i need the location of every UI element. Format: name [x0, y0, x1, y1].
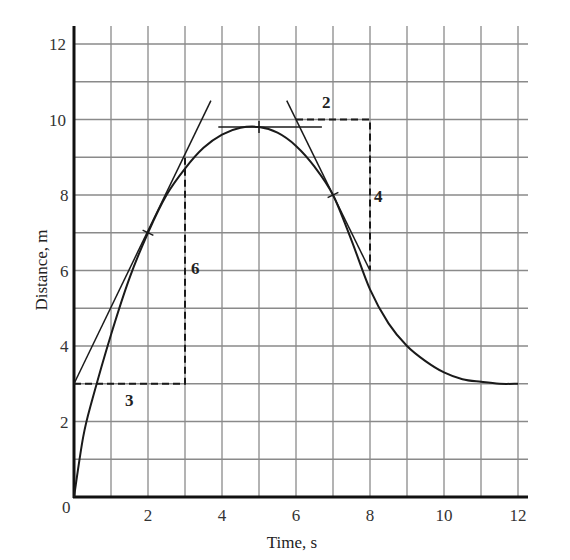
x-tick-10: 10	[436, 506, 453, 525]
distance-time-chart: 0 2 4 6 8 10 12 2 4 6 8 10 12 Time, s Di…	[0, 0, 570, 560]
y-tick-8: 8	[60, 186, 69, 205]
x-tick-12: 12	[510, 506, 527, 525]
y-tick-12: 12	[49, 35, 66, 54]
run-label-1: 3	[125, 391, 134, 410]
x-tick-6: 6	[292, 506, 301, 525]
tangent-line	[74, 101, 211, 384]
x-tick-labels: 2 4 6 8 10 12	[144, 506, 527, 525]
axes	[73, 26, 528, 498]
rise-label-2: 4	[374, 187, 383, 206]
annotations: 3 6 2 4	[125, 93, 383, 410]
y-tick-10: 10	[49, 111, 66, 130]
rise-label-1: 6	[191, 259, 200, 278]
tangent-point-marks	[143, 121, 339, 235]
x-axis-label: Time, s	[267, 533, 317, 552]
y-tick-6: 6	[60, 262, 69, 281]
y-tick-4: 4	[60, 337, 69, 356]
origin-label: 0	[62, 498, 71, 517]
run-label-2: 2	[322, 93, 331, 112]
y-axis-label: Distance, m	[32, 229, 51, 310]
x-tick-4: 4	[218, 506, 227, 525]
x-tick-8: 8	[366, 506, 375, 525]
x-tick-2: 2	[144, 506, 153, 525]
y-tick-2: 2	[60, 413, 69, 432]
y-tick-labels: 0 2 4 6 8 10 12	[49, 35, 71, 517]
grid	[74, 26, 528, 497]
